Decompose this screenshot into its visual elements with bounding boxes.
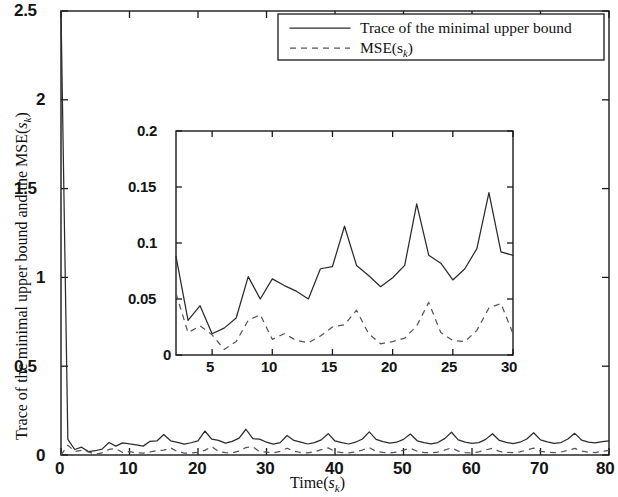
- y-axis-title: Trace of the minimal upper bound and the…: [13, 112, 33, 440]
- main-xtick-label-10: 10: [119, 459, 137, 479]
- inset-xtick-label-20: 20: [381, 358, 397, 375]
- inset-ytick-label-0_15: 0.15: [128, 178, 156, 195]
- legend-label-mse: MSE(sk): [360, 39, 413, 59]
- y-axis-title-tail: ): [13, 112, 30, 117]
- inset-xtick-label-5: 5: [206, 358, 214, 375]
- main-xtick-label-20: 20: [188, 459, 206, 479]
- main-xtick-label-60: 60: [462, 459, 480, 479]
- legend-label-mse-tail: ): [408, 39, 413, 56]
- main-ytick-label-1: 1: [36, 268, 45, 288]
- main-xtick-label-80: 80: [596, 459, 614, 479]
- inset-ytick-label-0_05: 0.05: [128, 290, 156, 307]
- main-ytick-label-2: 2: [36, 90, 45, 110]
- main-ytick-label-0: 0: [36, 446, 45, 466]
- inset-xtick-label-15: 15: [321, 358, 337, 375]
- inset-xtick-label-10: 10: [261, 358, 277, 375]
- x-axis-title: Time(sk): [290, 474, 345, 494]
- main-xtick-label-0: 0: [55, 459, 64, 479]
- inset-xtick-label-30: 30: [501, 358, 517, 375]
- main-xtick-label-30: 30: [256, 459, 274, 479]
- inset-xtick-label-25: 25: [441, 358, 457, 375]
- inset-background: [176, 131, 513, 355]
- inset-ytick-label-0_1: 0.1: [137, 234, 157, 251]
- main-ytick-label-2_5: 2.5: [14, 1, 37, 21]
- y-axis-title-sub: k: [21, 118, 33, 123]
- chart-canvas: [0, 0, 618, 497]
- inset-ytick-label-0: 0: [163, 346, 171, 363]
- x-axis-title-paren-close: ): [340, 474, 345, 491]
- figure-root: 0 0.5 1 1.5 2 2.5 0 10 20 30 40 50 60 70…: [0, 0, 618, 497]
- y-axis-title-s: s: [13, 122, 30, 128]
- legend-label-upper-bound: Trace of the minimal upper bound: [360, 19, 572, 37]
- main-xtick-label-50: 50: [393, 459, 411, 479]
- legend-label-mse-main: MSE(: [360, 39, 397, 56]
- main-xtick-label-70: 70: [530, 459, 548, 479]
- x-axis-title-main: Time: [290, 474, 323, 491]
- inset-ytick-label-0_2: 0.2: [137, 122, 157, 139]
- y-axis-title-main: Trace of the minimal upper bound and the…: [13, 129, 30, 440]
